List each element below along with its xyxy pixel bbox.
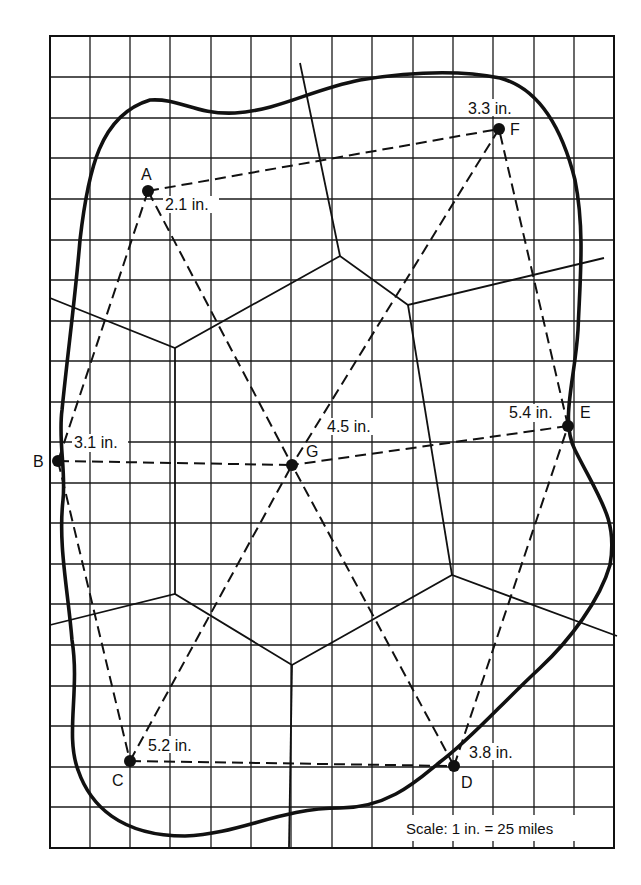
- station-marker-icon: [286, 459, 298, 471]
- station-label: E: [580, 404, 591, 421]
- station-rainfall: 4.5 in.: [327, 418, 371, 435]
- station-rainfall: 3.8 in.: [469, 744, 513, 761]
- station-marker-icon: [562, 420, 574, 432]
- station-marker-icon: [142, 185, 154, 197]
- station-rainfall: 5.4 in.: [509, 404, 553, 421]
- station-rainfall: 3.1 in.: [74, 434, 118, 451]
- scale-label: Scale: 1 in. = 25 miles: [406, 820, 553, 837]
- station-marker-icon: [52, 455, 64, 467]
- thiessen-polygons: [50, 63, 617, 848]
- station-label: D: [461, 774, 473, 791]
- station-marker-icon: [124, 755, 136, 767]
- station-label: B: [33, 453, 44, 470]
- station-B: B 3.1 in.: [33, 434, 128, 470]
- station-marker-icon: [493, 123, 505, 135]
- station-rainfall: 5.2 in.: [148, 737, 192, 754]
- grid: [50, 36, 614, 848]
- station-G: G 4.5 in.: [286, 418, 384, 471]
- station-label: G: [306, 443, 318, 460]
- station-label: A: [141, 166, 152, 183]
- station-label: F: [510, 121, 520, 138]
- station-rainfall: 3.3 in.: [468, 100, 512, 117]
- thiessen-map: A 2.1 in. 3.3 in. F B 3.1 in. G 4.5 in. …: [0, 0, 641, 885]
- station-rainfall: 2.1 in.: [165, 196, 209, 213]
- station-A: A 2.1 in.: [141, 166, 219, 213]
- station-label: C: [112, 772, 124, 789]
- station-marker-icon: [448, 760, 460, 772]
